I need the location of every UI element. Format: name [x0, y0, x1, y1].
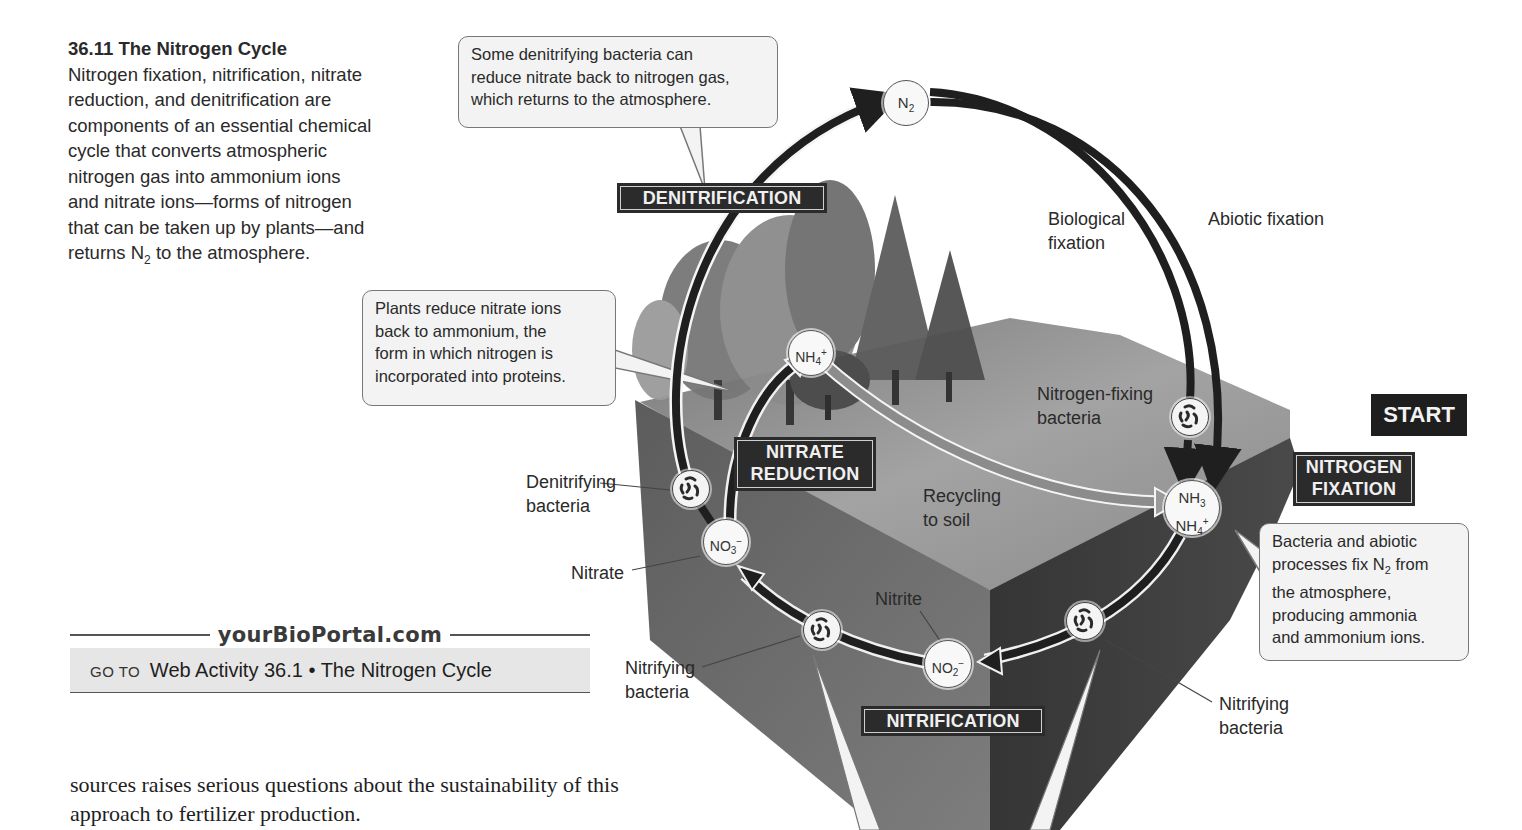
caption-line: nitrogen gas into ammonium ions: [68, 164, 418, 190]
bioportal-box: yourBioPortal.com GO TO Web Activity 36.…: [70, 622, 590, 693]
denitrifying-bacteria-label: Denitrifying bacteria: [526, 470, 616, 518]
caption-line: Nitrogen fixation, nitrification, nitrat…: [68, 62, 418, 88]
abiotic-fixation-label: Abiotic fixation: [1208, 207, 1324, 231]
goto-label: GO TO: [90, 663, 140, 680]
denitrification-callout: Some denitrifying bacteria can reduce ni…: [458, 36, 778, 128]
nitrite-label: Nitrite: [875, 587, 922, 611]
caption-title: 36.11 The Nitrogen Cycle: [68, 36, 418, 62]
nitrogen-fixation-callout: Bacteria and abiotic processes fix N2 fr…: [1259, 523, 1469, 661]
recycling-to-soil-label: Recycling to soil: [923, 484, 1001, 532]
divider: [70, 634, 210, 636]
divider: [450, 634, 590, 636]
caption-line: that can be taken up by plants—and: [68, 215, 418, 241]
no2-nitrite-node: NO2−: [924, 640, 972, 688]
nitrifying-bacteria-right-icon: [1066, 602, 1104, 640]
nitrifying-bacteria-left-icon: [803, 611, 841, 649]
nitrification-label: NITRIFICATION: [861, 706, 1045, 736]
body-text: sources raises serious questions about t…: [70, 770, 790, 828]
caption-line: returns N2 to the atmosphere.: [68, 240, 418, 273]
nitrate-label: Nitrate: [571, 561, 624, 585]
nitrogen-fixing-bacteria-icon: [1171, 398, 1209, 436]
figure-caption: 36.11 The Nitrogen Cycle Nitrogen fixati…: [68, 36, 418, 273]
caption-line: components of an essential chemical: [68, 113, 418, 139]
nitrate-reduction-label: NITRATE REDUCTION: [734, 437, 876, 491]
start-badge: START: [1371, 394, 1467, 436]
web-activity-link[interactable]: GO TO Web Activity 36.1 • The Nitrogen C…: [70, 648, 590, 693]
no3-nitrate-node: NO3−: [703, 519, 749, 565]
nitrifying-bacteria-right-label: Nitrifying bacteria: [1219, 692, 1289, 740]
nh3-nh4-soil-node: NH3 NH4+: [1164, 480, 1220, 536]
denitrifying-bacteria-icon: [672, 470, 710, 508]
denitrification-label: DENITRIFICATION: [617, 183, 827, 213]
caption-line: and nitrate ions—forms of nitrogen: [68, 189, 418, 215]
nh4-plant-node: NH4+: [788, 330, 834, 376]
portal-site-link[interactable]: yourBioPortal.com: [210, 623, 450, 647]
denitrification-callout-pointer: [680, 126, 705, 190]
nitrifying-bacteria-left-label: Nitrifying bacteria: [625, 656, 695, 704]
caption-line: reduction, and denitrification are: [68, 87, 418, 113]
caption-line: cycle that converts atmospheric: [68, 138, 418, 164]
web-activity-title: Web Activity 36.1 • The Nitrogen Cycle: [150, 659, 492, 681]
nitrogen-fixation-label: NITROGEN FIXATION: [1293, 452, 1415, 506]
biological-fixation-label: Biological fixation: [1048, 207, 1125, 255]
nitrogen-fixing-bacteria-label: Nitrogen-fixing bacteria: [1037, 382, 1153, 430]
n2-node: N2: [883, 80, 929, 126]
nitrate-reduction-callout: Plants reduce nitrate ions back to ammon…: [362, 290, 616, 406]
